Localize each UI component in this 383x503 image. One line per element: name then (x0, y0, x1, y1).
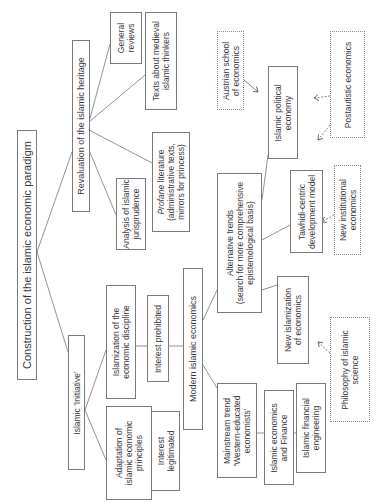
node-revaluation-heritage: Revaluation of the islamic heritage (72, 40, 90, 212)
node-islamic-political-economy: Islamic political economy (268, 66, 298, 159)
node-profane-literature: Profane literature (administrative texts… (152, 132, 190, 232)
paradigm-diagram: Construction of the islamic economic par… (0, 0, 383, 503)
node-alternative-trends: Alternative trends (search for more comp… (217, 173, 262, 313)
node-austrian-school: Austrian school of economics (217, 31, 244, 110)
node-adaptation-principles: Adaptation of islamic economic principle… (106, 406, 152, 500)
node-interest-prohibited: Interest prohibited (147, 295, 169, 382)
node-modern-islamic-economics: Modern islamic economics (183, 268, 203, 430)
node-islamic-financial-engineering: Islamic financial engineering (296, 383, 326, 473)
node-islamization-discipline: Islamization of the economic discipline (106, 285, 136, 399)
node-construction-paradigm: Construction of the islamic economic par… (17, 130, 37, 380)
node-islamic-jurisprudence: Analysis of islamic jurisprudence (116, 178, 146, 250)
node-mainstream-trend: Mainstream trend 'Western-educated econo… (217, 383, 257, 478)
node-islamic-initiative: Islamic 'Initiative' (68, 335, 85, 470)
node-new-institutional: New institutional economics (334, 165, 361, 255)
node-medieval-texts: Texts about medieval islamic thinkers (145, 12, 177, 110)
node-tawhidi-centric: Tawhidi-centric development model (290, 170, 323, 253)
node-general-reviews: General reviews (110, 12, 142, 64)
node-islamic-economics-finance: Islamic economics and Finance (264, 390, 294, 485)
node-interest-legitimated: Interest legitimated (151, 411, 180, 491)
node-postautistic-economics: Postautistic economics (330, 31, 365, 138)
node-new-islamization: New islamization of economics (277, 276, 309, 364)
node-philosophy-islamic-science: Philosophy of islamic science (330, 317, 370, 422)
